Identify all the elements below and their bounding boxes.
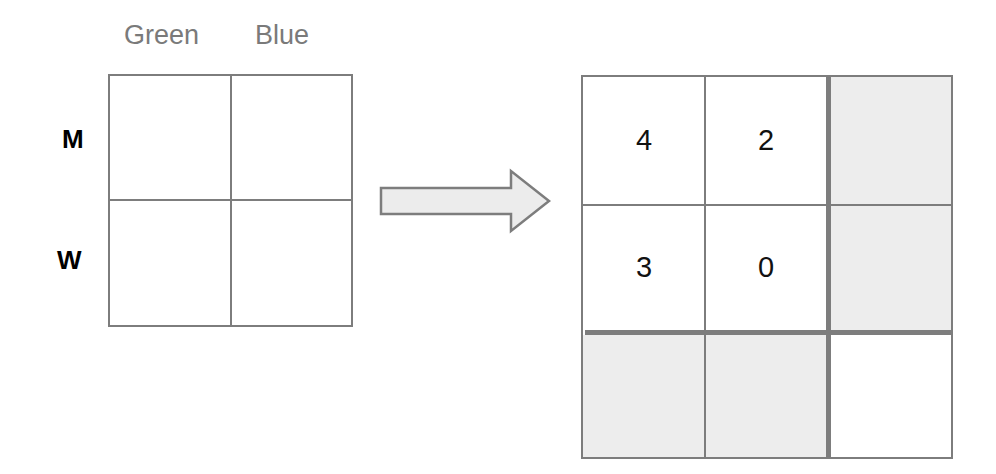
cell-r0-c1: 2 — [705, 77, 827, 204]
divider-horizontal-thick — [585, 330, 951, 335]
divider-vertical-thick — [826, 77, 831, 457]
cell-r2-c2 — [831, 335, 951, 457]
cell-w-green — [110, 200, 231, 325]
right-grid: 4 2 3 0 — [581, 75, 953, 459]
right-arrow-icon — [378, 168, 554, 234]
cell-r1-c1: 0 — [705, 205, 827, 330]
column-header-blue: Blue — [255, 20, 309, 50]
divider-horizontal — [110, 199, 351, 201]
cell-r2-c1-shaded — [705, 335, 827, 457]
row-header-m: M — [62, 124, 84, 154]
divider-horizontal-thin — [583, 204, 951, 206]
cell-m-green — [110, 76, 231, 200]
left-grid — [108, 74, 353, 327]
cell-r0-c2-shaded — [831, 77, 951, 204]
row-header-w: W — [57, 245, 82, 275]
column-header-green: Green — [124, 20, 199, 50]
cell-r1-c0: 3 — [583, 205, 705, 330]
cell-r2-c0-shaded — [583, 335, 705, 457]
divider-vertical-thin — [704, 77, 706, 457]
cell-m-blue — [231, 76, 351, 200]
cell-r0-c0: 4 — [583, 77, 705, 204]
cell-w-blue — [231, 200, 351, 325]
cell-r1-c2-shaded — [831, 205, 951, 330]
